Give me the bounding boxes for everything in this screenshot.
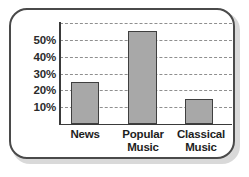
xtick-label-popular-music: Popular Music [110, 128, 176, 154]
xtick-label-news-line1: News [55, 128, 115, 141]
xtick-label-popular-music-line1: Popular [110, 128, 176, 141]
gridline-60 [60, 23, 232, 24]
xtick-label-classical-music: Classical Music [168, 128, 234, 154]
y-axis-line [59, 22, 61, 125]
ytick-label-30: 30% [16, 68, 56, 80]
ytick-label-20: 20% [16, 84, 56, 96]
ytick-label-10: 10% [16, 101, 56, 113]
xtick-label-classical-music-line2: Music [168, 141, 234, 154]
bar-popular-music [128, 31, 157, 124]
ytick-label-40: 40% [16, 51, 56, 63]
xtick-label-news: News [55, 128, 115, 141]
ytick-label-50: 50% [16, 34, 56, 46]
xtick-label-classical-music-line1: Classical [168, 128, 234, 141]
bar-classical-music [185, 99, 213, 124]
chart-figure: 50% 40% 30% 20% 10% News Popular Music C… [0, 0, 249, 177]
plot-area: 50% 40% 30% 20% 10% News Popular Music C… [0, 0, 249, 177]
bar-news [71, 82, 99, 124]
xtick-label-popular-music-line2: Music [110, 141, 176, 154]
